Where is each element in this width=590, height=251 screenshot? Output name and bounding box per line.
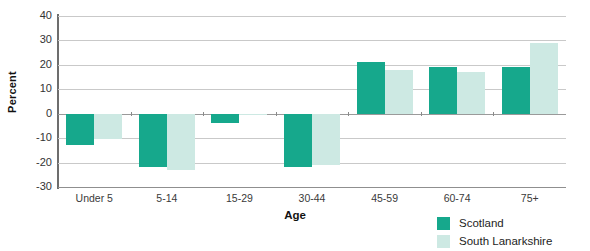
bar-group (502, 16, 558, 187)
y-axis-tick-label: 20 (6, 59, 52, 70)
bar-group (284, 16, 340, 187)
y-axis-tick-label: -30 (6, 181, 52, 192)
axis-tickmark (348, 112, 349, 116)
bar-scotland (429, 67, 457, 113)
bar-scotland (139, 114, 167, 168)
bar-group (357, 16, 413, 187)
y-axis-tick-label: 40 (6, 10, 52, 21)
bar-south-lanarkshire (530, 43, 558, 114)
legend-swatch-scotland (437, 217, 450, 230)
y-axis-tick-label: 30 (6, 34, 52, 45)
x-axis-tick-label: 45-59 (348, 192, 421, 204)
bar-south-lanarkshire (457, 72, 485, 114)
axis-tickmark (276, 112, 277, 116)
axis-tickmark (131, 112, 132, 116)
bar-group (66, 16, 122, 187)
legend-item-scotland: Scotland (437, 214, 552, 232)
bar-south-lanarkshire (312, 114, 340, 165)
legend-label-scotland: Scotland (459, 217, 504, 229)
chart-legend: Scotland South Lanarkshire (437, 214, 552, 250)
axis-tickmark (493, 112, 494, 116)
bar-south-lanarkshire (239, 114, 267, 115)
bar-south-lanarkshire (385, 70, 413, 114)
bar-south-lanarkshire (94, 114, 122, 140)
bar-scotland (357, 62, 385, 113)
bar-group (429, 16, 485, 187)
axis-tickmark (203, 112, 204, 116)
legend-item-south-lanarkshire: South Lanarkshire (437, 232, 552, 250)
bar-south-lanarkshire (167, 114, 195, 170)
y-axis-tick-label: -10 (6, 132, 52, 143)
x-axis-tick-label: 75+ (493, 192, 566, 204)
y-axis-tick-label: -20 (6, 157, 52, 168)
bar-group (139, 16, 195, 187)
bar-chart: Percent 403020100-10-20-30 Under 55-1415… (0, 0, 590, 251)
y-axis-tick-label: 0 (6, 108, 52, 119)
bar-scotland (502, 67, 530, 113)
x-axis-tick-label: Under 5 (58, 192, 131, 204)
x-axis-tick-label: 30-44 (276, 192, 349, 204)
bar-scotland (284, 114, 312, 168)
x-axis-tick-label: 60-74 (421, 192, 494, 204)
gridline (58, 187, 566, 188)
legend-label-south-lanarkshire: South Lanarkshire (459, 235, 552, 247)
axis-tickmark (421, 112, 422, 116)
x-axis-tick-label: 5-14 (131, 192, 204, 204)
bar-scotland (211, 114, 239, 124)
bar-scotland (66, 114, 94, 146)
x-axis-tick-label: 15-29 (203, 192, 276, 204)
y-axis-tick-label: 10 (6, 83, 52, 94)
plot-area (58, 16, 566, 187)
bar-group (211, 16, 267, 187)
legend-swatch-south-lanarkshire (437, 235, 450, 248)
